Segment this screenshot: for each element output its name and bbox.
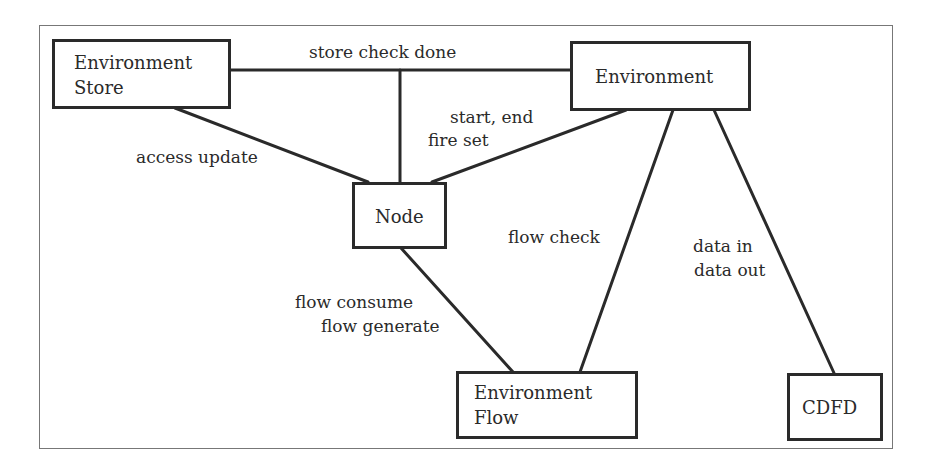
node-environment-flow: Environment Flow bbox=[456, 371, 638, 439]
node-environment-store: Environment Store bbox=[52, 39, 231, 109]
environment-label: Environment bbox=[595, 66, 713, 88]
node-node: Node bbox=[352, 182, 447, 249]
edge-label-access-update: access update bbox=[136, 145, 258, 169]
edge-label-flow-generate: flow generate bbox=[321, 314, 440, 338]
node-cdfd: CDFD bbox=[787, 373, 883, 441]
edge-label-flow-consume: flow consume bbox=[295, 290, 413, 314]
edge-label-start-end: start, end bbox=[450, 105, 533, 129]
environment-flow-label-line2: Flow bbox=[474, 407, 519, 429]
environment-flow-label-line1: Environment bbox=[474, 382, 592, 404]
node-label: Node bbox=[375, 206, 424, 228]
edge-label-data-in: data in bbox=[693, 234, 753, 258]
environment-store-label-line2: Store bbox=[74, 77, 124, 99]
diagram-canvas: Environment Store Environment Node Envir… bbox=[0, 0, 933, 476]
edge-label-store-check-done: store check done bbox=[309, 40, 456, 64]
environment-store-label-line1: Environment bbox=[74, 52, 192, 74]
edge-node-flow bbox=[401, 248, 513, 372]
cdfd-label: CDFD bbox=[802, 397, 857, 419]
edge-label-data-out: data out bbox=[694, 258, 765, 282]
node-environment: Environment bbox=[570, 41, 751, 111]
edge-label-fire-set: fire set bbox=[428, 128, 489, 152]
edge-label-flow-check: flow check bbox=[508, 225, 600, 249]
